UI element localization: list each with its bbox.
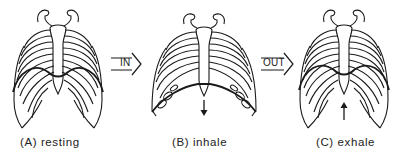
ribcage-exhale-icon [294, 0, 394, 135]
panel-label-inhale: (B) inhale [172, 136, 227, 148]
transition-arrow-out: OUT [260, 52, 294, 76]
transition-label-in: IN [120, 57, 131, 68]
down-arrow-icon [201, 100, 208, 116]
panel-label-exhale: (C) exhale [316, 136, 375, 148]
ribcage-resting-icon [8, 0, 108, 135]
up-arrow-icon [341, 102, 348, 120]
ribcage-resting-figure [8, 0, 108, 135]
transition-arrow-in: IN [110, 52, 142, 76]
ribcage-inhale-figure [148, 0, 260, 135]
transition-label-out: OUT [263, 57, 285, 68]
panel-label-resting: (A) resting [20, 136, 80, 148]
ribcage-inhale-icon [148, 0, 260, 135]
ribcage-exhale-figure [294, 0, 394, 135]
